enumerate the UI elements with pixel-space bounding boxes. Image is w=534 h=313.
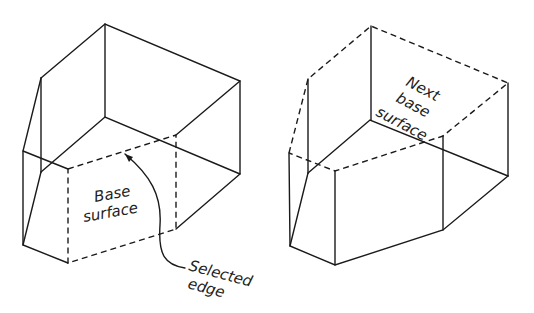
diagram-canvas: Base surface Selected edge Next base sur… xyxy=(0,0,534,313)
label-surface: surface xyxy=(82,199,140,226)
left-prism: Base surface Selected edge xyxy=(23,24,255,302)
right-prism: Next base surface xyxy=(289,26,508,265)
